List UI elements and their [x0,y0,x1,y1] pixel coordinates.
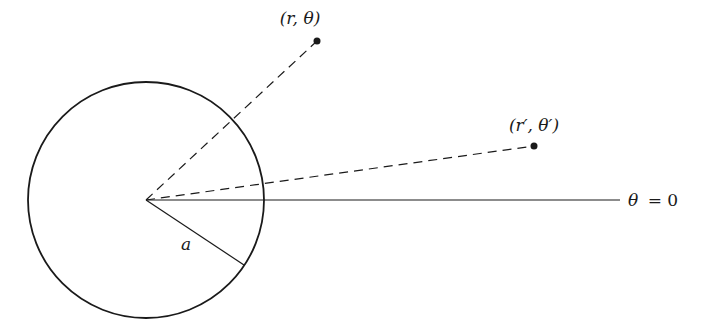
label-r-prime-theta-prime: (r′, θ′) [509,115,559,135]
label-equals-zero: = 0 [648,190,678,210]
polar-coordinate-diagram: (r, θ) (r′, θ′) a θ = 0 [0,0,722,335]
point-r-prime-theta-prime-dot [531,143,538,150]
label-theta-zero: θ = 0 [628,190,678,210]
label-radius-a: a [181,234,191,254]
label-theta-symbol: θ [628,190,638,210]
point-r-theta-dot [314,38,321,45]
dashed-line-to-r-prime-theta-prime [146,146,534,200]
dashed-line-to-r-theta [146,41,317,200]
radius-line-a [146,200,244,265]
label-r-theta: (r, θ) [280,8,321,28]
